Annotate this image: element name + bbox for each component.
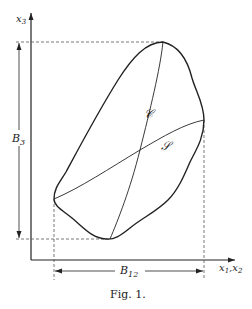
curve-c bbox=[110, 42, 163, 239]
x1-x2-axis-label: x1,x2 bbox=[219, 262, 243, 275]
figure-diagram: B3 B12 x3 x1,x2 𝒞 𝒮 Fig. 1. bbox=[0, 0, 252, 309]
x3-axis-label: x3 bbox=[16, 13, 27, 26]
body-boundary-curve bbox=[54, 42, 204, 239]
figure-caption: Fig. 1. bbox=[110, 288, 146, 301]
curve-c-label: 𝒞 bbox=[144, 107, 156, 121]
curve-s-label: 𝒮 bbox=[161, 139, 174, 153]
